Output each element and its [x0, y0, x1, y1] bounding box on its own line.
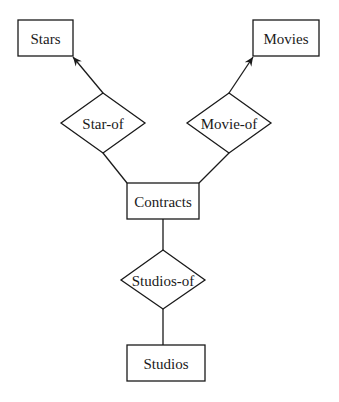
entity-stars-label: Stars: [31, 31, 61, 47]
relationship-movie-of[interactable]: Movie-of: [187, 93, 271, 153]
entity-studios[interactable]: Studios: [127, 345, 205, 381]
relationship-studios-of[interactable]: Studios-of: [121, 250, 205, 309]
edge-contracts-to-star-of: [103, 153, 127, 183]
relationship-star-of-label: Star-of: [82, 116, 123, 132]
relationship-studios-of-label: Studios-of: [132, 273, 195, 289]
edge-star-of-to-stars: [73, 57, 103, 93]
relationship-star-of[interactable]: Star-of: [61, 93, 145, 153]
entity-studios-label: Studios: [143, 356, 188, 372]
entity-movies[interactable]: Movies: [253, 20, 319, 56]
entity-stars[interactable]: Stars: [18, 20, 73, 56]
entity-movies-label: Movies: [264, 31, 309, 47]
er-diagram: Stars Movies Contracts Studios Star-of M…: [0, 0, 339, 402]
entity-contracts[interactable]: Contracts: [127, 183, 199, 219]
relationship-movie-of-label: Movie-of: [201, 116, 258, 132]
edge-movie-of-to-movies: [229, 57, 253, 93]
edge-contracts-to-movie-of: [199, 153, 229, 183]
entity-contracts-label: Contracts: [134, 194, 192, 210]
